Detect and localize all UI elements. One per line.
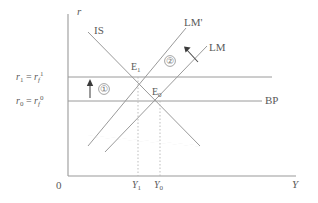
- step-1-numeral: ①: [100, 84, 108, 94]
- r0-equals: =: [26, 95, 32, 106]
- bp-curve-label: BP: [265, 95, 278, 106]
- r1-main-sub: 1: [20, 76, 24, 84]
- r1-foreign-sup: 1: [40, 70, 44, 78]
- is-curve-label: IS: [94, 25, 104, 36]
- e1-point-label: E1: [131, 62, 141, 74]
- is-lm-bp-diagram: r Y 0 r1 = rf1 r0 = rf0 IS LM LM' BP E1 …: [0, 0, 318, 203]
- y1-tick-label: Y1: [132, 180, 141, 192]
- r1-equals: =: [26, 71, 32, 82]
- y-axis-label: r: [77, 6, 81, 17]
- lm-curve-label: LM: [209, 42, 226, 53]
- r0-foreign-sup: 0: [40, 94, 44, 102]
- r0-level-label: r0 = rf0: [16, 95, 43, 108]
- lm-curve: [105, 46, 207, 152]
- step-2-label: ②: [166, 57, 174, 66]
- lm-prime-curve-label: LM': [184, 17, 202, 28]
- y0-tick-label: Y0: [154, 180, 163, 192]
- r0-main-sub: 0: [20, 100, 24, 108]
- origin-label: 0: [56, 180, 62, 191]
- step-2-numeral: ②: [166, 56, 174, 66]
- y1-sub: 1: [138, 184, 142, 192]
- x-axis-label: Y: [292, 179, 298, 190]
- e1-sub: 1: [137, 66, 141, 74]
- step-1-arrow-icon: [87, 79, 93, 98]
- step-2-arrow-icon: [184, 47, 198, 63]
- y0-sub: 0: [160, 184, 164, 192]
- e0-sub: 0: [158, 91, 162, 99]
- e0-point-label: E0: [152, 87, 162, 99]
- r1-level-label: r1 = rf1: [16, 71, 43, 84]
- step-1-label: ①: [100, 85, 108, 94]
